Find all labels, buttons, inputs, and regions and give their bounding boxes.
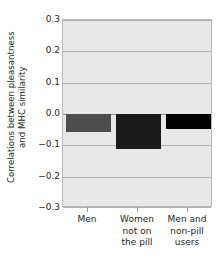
- bar: [116, 114, 161, 149]
- y-axis-tick-label: 0.1: [46, 77, 60, 86]
- x-axis-tick-label-line: users: [168, 237, 207, 249]
- y-axis-tick-label: −0.3: [38, 203, 60, 212]
- x-axis-tick-label-line: not on: [120, 226, 154, 238]
- bars-layer: [63, 20, 211, 206]
- bar: [166, 114, 211, 129]
- y-axis-tick-label: 0.3: [46, 15, 60, 24]
- x-axis-tick-label: Men: [77, 214, 96, 226]
- y-axis-tick-label: 0.0: [46, 109, 60, 118]
- x-axis-tick-label: Men andnon-pillusers: [168, 214, 207, 249]
- y-axis-tick-label: 0.2: [46, 46, 60, 55]
- x-axis-tick-label: Womennot onthe pill: [120, 214, 154, 249]
- y-axis-title: Correlations between pleasantness and MH…: [0, 0, 34, 215]
- y-axis-title-line-2: and MHC similarity: [17, 32, 28, 184]
- x-axis-tick-label-line: Women: [120, 214, 154, 226]
- y-axis-tick-label: −0.2: [38, 171, 60, 180]
- y-axis-title-line-1: Correlations between pleasantness: [6, 32, 17, 184]
- bar: [66, 114, 111, 132]
- x-axis-tick-label-line: Men: [77, 214, 96, 226]
- x-axis-tick: [87, 207, 88, 212]
- x-axis-tick: [187, 207, 188, 212]
- x-axis-tick: [137, 207, 138, 212]
- bar-chart: Correlations between pleasantness and MH…: [0, 0, 222, 266]
- y-axis-tick-label: −0.1: [38, 140, 60, 149]
- y-axis-tick-labels: 0.30.20.10.0−0.1−0.2−0.3: [30, 19, 60, 207]
- x-axis-tick-label-line: Men and: [168, 214, 207, 226]
- x-axis-tick-label-line: the pill: [120, 237, 154, 249]
- plot-area: [62, 19, 212, 207]
- x-axis-tick-label-line: non-pill: [168, 226, 207, 238]
- x-axis-tick-labels: MenWomennot onthe pillMen andnon-pilluse…: [40, 214, 222, 264]
